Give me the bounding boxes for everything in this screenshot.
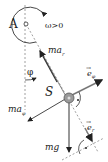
center-dot <box>68 97 71 100</box>
e-phi-arrow <box>70 80 102 96</box>
omega-label: ω>0 <box>45 21 63 30</box>
ma-phi-arrow <box>28 98 67 121</box>
right-angle-dot-s <box>77 99 79 101</box>
right-angle-arc-e-r <box>79 140 84 154</box>
right-angle-dot-e-r <box>85 147 87 149</box>
e-phi-vector-mark: → <box>86 64 91 71</box>
pivot-label: A <box>8 17 18 31</box>
ma-phi-label: maφ <box>8 104 26 117</box>
angle-label: φ <box>27 67 33 77</box>
e-r-vector-mark: → <box>86 118 91 125</box>
ma-r-arrow <box>40 51 57 82</box>
ma-r-label: mar <box>48 45 65 57</box>
pivot-point <box>24 22 28 26</box>
perpendicular-dashed-line <box>62 138 104 160</box>
pendulum-diagram: A ω>0 φ mar eφ → S maφ mg er → <box>0 0 108 162</box>
angle-arc <box>25 78 36 80</box>
center-label: S <box>45 85 53 99</box>
mg-label: mg <box>45 142 60 152</box>
